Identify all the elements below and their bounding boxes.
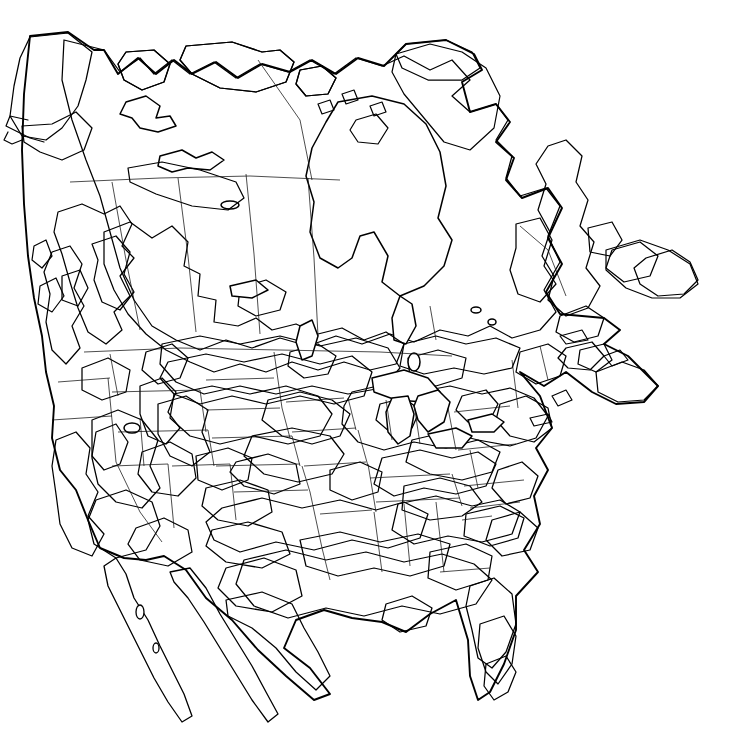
water-lake-small-3 bbox=[488, 319, 496, 325]
climate-zone-map-figure bbox=[0, 0, 739, 750]
baja-island-2 bbox=[153, 643, 159, 653]
baja-island-1 bbox=[136, 605, 144, 619]
water-lake-nipigon bbox=[408, 353, 420, 371]
north-america-map-svg bbox=[0, 0, 739, 750]
water-lake-small-2 bbox=[471, 307, 481, 313]
